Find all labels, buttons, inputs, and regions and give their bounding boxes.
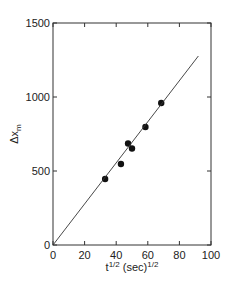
x-tick-label: 100 [202,249,220,261]
fit-line [53,56,198,245]
y-tick-label: 1500 [26,17,50,29]
x-tick-label: 0 [50,249,56,261]
data-point [129,145,135,151]
y-tick-label: 0 [44,239,50,251]
x-tick-label: 20 [78,249,90,261]
scatter-chart: 020406080100050010001500 t1/2 (sec)1/2 Δ… [0,0,228,288]
x-axis-label: t1/2 (sec)1/2 [106,260,159,273]
y-axis-label: Δxm [8,124,23,144]
data-point [125,140,131,146]
y-tick-label: 500 [32,165,50,177]
x-tick-label: 80 [173,249,185,261]
plot-area: 020406080100050010001500 [26,17,221,261]
data-point [118,161,124,167]
plot-frame [53,23,211,245]
y-tick-label: 1000 [26,91,50,103]
